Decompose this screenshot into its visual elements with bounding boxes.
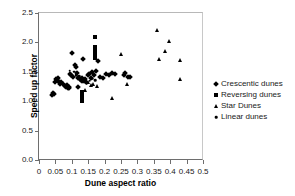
x-tick-mark — [88, 160, 89, 164]
x-tick-label: 0.45 — [179, 166, 195, 177]
x-tick-mark — [154, 160, 155, 164]
data-point-diamond — [112, 71, 118, 77]
x-tick-label: 0.5 — [197, 166, 208, 177]
diamond-icon — [213, 81, 219, 87]
legend-marker-icon — [212, 111, 221, 122]
legend-item-label: Crescentic dunes — [221, 78, 283, 89]
data-point-diamond — [80, 57, 86, 63]
chart-legend: Crescentic dunesReversing dunesStar Dune… — [212, 78, 294, 122]
data-point-triangle — [163, 49, 167, 53]
legend-marker-icon — [212, 89, 221, 100]
legend-item-triangle: Star Dunes — [212, 100, 294, 111]
data-point-triangle — [178, 58, 182, 62]
data-point-diamond — [69, 50, 75, 56]
y-tick-mark — [35, 42, 39, 43]
data-point-triangle — [178, 77, 182, 81]
data-point-triangle — [157, 57, 161, 61]
x-axis-title: Dune aspect ratio — [38, 178, 203, 188]
legend-item-label: Reversing dunes — [221, 89, 281, 100]
data-point-triangle — [155, 28, 159, 32]
x-tick-label: 0.25 — [113, 166, 129, 177]
legend-marker-icon — [212, 78, 221, 89]
data-point-circle — [85, 82, 88, 85]
x-tick-label: 0 — [37, 166, 41, 177]
legend-marker-icon — [212, 100, 221, 111]
x-tick-mark — [187, 160, 188, 164]
legend-item-square: Reversing dunes — [212, 89, 294, 100]
x-tick-mark — [72, 160, 73, 164]
x-tick-label: 0.4 — [165, 166, 176, 177]
x-tick-label: 0.2 — [99, 166, 110, 177]
scatter-chart-figure: 0.00.51.01.52.02.500.050.10.150.20.250.3… — [0, 0, 295, 196]
legend-item-label: Linear dunes — [221, 111, 267, 122]
y-tick-mark — [35, 131, 39, 132]
y-tick-label: 2.5 — [22, 7, 33, 18]
triangle-icon — [214, 104, 218, 108]
x-tick-mark — [170, 160, 171, 164]
data-point-circle — [73, 71, 76, 74]
x-tick-mark — [55, 160, 56, 164]
x-tick-label: 0.1 — [66, 166, 77, 177]
y-tick-label: 2.0 — [22, 36, 33, 47]
data-point-triangle — [83, 88, 87, 92]
y-axis-title: Speed up factor — [29, 54, 39, 118]
square-icon — [214, 93, 218, 97]
data-point-square — [80, 99, 84, 103]
x-tick-label: 0.3 — [132, 166, 143, 177]
data-point-triangle — [110, 96, 114, 100]
circle-icon — [215, 116, 218, 119]
x-tick-label: 0.05 — [48, 166, 64, 177]
legend-item-circle: Linear dunes — [212, 111, 294, 122]
legend-item-label: Star Dunes — [221, 100, 261, 111]
y-tick-label: 0.5 — [22, 125, 33, 136]
y-tick-label: 0.0 — [22, 154, 33, 165]
legend-item-diamond: Crescentic dunes — [212, 78, 294, 89]
y-tick-mark — [35, 13, 39, 14]
data-point-square — [93, 35, 97, 39]
data-point-diamond — [73, 64, 79, 70]
data-point-triangle — [95, 84, 99, 88]
x-tick-mark — [121, 160, 122, 164]
data-point-triangle — [125, 82, 129, 86]
x-tick-mark — [39, 160, 40, 164]
data-point-diamond — [94, 68, 100, 74]
x-tick-label: 0.35 — [146, 166, 162, 177]
data-point-circle — [78, 75, 81, 78]
x-tick-label: 0.15 — [80, 166, 96, 177]
data-point-square — [93, 56, 97, 60]
plot-area: 0.00.51.01.52.02.500.050.10.150.20.250.3… — [39, 13, 203, 160]
x-tick-mark — [137, 160, 138, 164]
data-point-circle — [68, 69, 71, 72]
data-point-circle — [94, 79, 97, 82]
x-tick-mark — [203, 160, 204, 164]
data-point-triangle — [119, 52, 123, 56]
x-tick-mark — [105, 160, 106, 164]
data-point-triangle — [167, 39, 171, 43]
